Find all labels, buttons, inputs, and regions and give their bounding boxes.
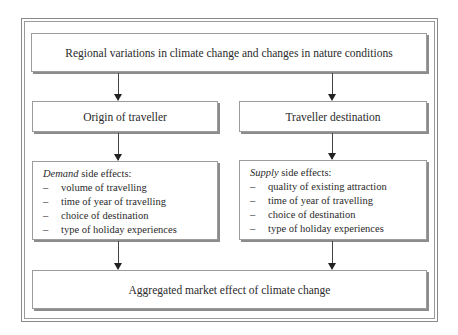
dash: – bbox=[250, 180, 268, 194]
origin-label: Origin of traveller bbox=[83, 111, 167, 123]
list-item: –time of year of travelling bbox=[250, 194, 426, 208]
arrow-down-icon bbox=[118, 241, 119, 269]
list-item-text: choice of destination bbox=[61, 209, 148, 223]
list-item: –type of holiday experiences bbox=[43, 223, 217, 237]
dash: – bbox=[43, 223, 61, 237]
arrow-down-icon bbox=[332, 73, 333, 100]
list-item: –time of year of travelling bbox=[43, 195, 217, 209]
aggregated-market-effect-box: Aggregated market effect of climate chan… bbox=[32, 270, 427, 309]
arrow-down-icon bbox=[118, 133, 119, 160]
list-item: –choice of destination bbox=[43, 209, 217, 223]
supply-heading-italic: Supply bbox=[250, 167, 279, 178]
arrow-down-icon bbox=[332, 241, 333, 269]
dash: – bbox=[250, 194, 268, 208]
list-item: –type of holiday experiences bbox=[250, 222, 426, 236]
list-item-text: quality of existing attraction bbox=[268, 180, 387, 194]
regional-variations-box: Regional variations in climate change an… bbox=[31, 33, 427, 72]
dash: – bbox=[43, 209, 61, 223]
list-item: –volume of travelling bbox=[43, 181, 217, 195]
demand-side-effects-box: Demand side effects: –volume of travelli… bbox=[32, 161, 218, 240]
destination-label: Traveller destination bbox=[285, 111, 380, 123]
aggregated-market-effect-label: Aggregated market effect of climate chan… bbox=[129, 284, 331, 296]
list-item-text: time of year of travelling bbox=[268, 194, 373, 208]
dash: – bbox=[43, 181, 61, 195]
demand-heading: Demand side effects: bbox=[43, 167, 217, 181]
list-item-text: type of holiday experiences bbox=[268, 222, 384, 236]
supply-heading-rest: side effects: bbox=[279, 167, 332, 178]
supply-side-effects-box: Supply side effects: –quality of existin… bbox=[239, 160, 427, 240]
list-item: –quality of existing attraction bbox=[250, 180, 426, 194]
traveller-destination-box: Traveller destination bbox=[239, 101, 427, 132]
supply-list: –quality of existing attraction –time of… bbox=[250, 180, 426, 236]
list-item-text: volume of travelling bbox=[61, 181, 147, 195]
regional-variations-label: Regional variations in climate change an… bbox=[65, 47, 392, 59]
dash: – bbox=[250, 208, 268, 222]
list-item: –choice of destination bbox=[250, 208, 426, 222]
demand-heading-italic: Demand bbox=[43, 168, 79, 179]
dash: – bbox=[250, 222, 268, 236]
demand-heading-rest: side effects: bbox=[79, 168, 132, 179]
list-item-text: choice of destination bbox=[268, 208, 355, 222]
arrow-down-icon bbox=[118, 73, 119, 100]
supply-heading: Supply side effects: bbox=[250, 166, 426, 180]
dash: – bbox=[43, 195, 61, 209]
arrow-down-icon bbox=[332, 133, 333, 159]
demand-list: –volume of travelling –time of year of t… bbox=[43, 181, 217, 237]
origin-of-traveller-box: Origin of traveller bbox=[32, 101, 218, 132]
list-item-text: time of year of travelling bbox=[61, 195, 166, 209]
list-item-text: type of holiday experiences bbox=[61, 223, 177, 237]
